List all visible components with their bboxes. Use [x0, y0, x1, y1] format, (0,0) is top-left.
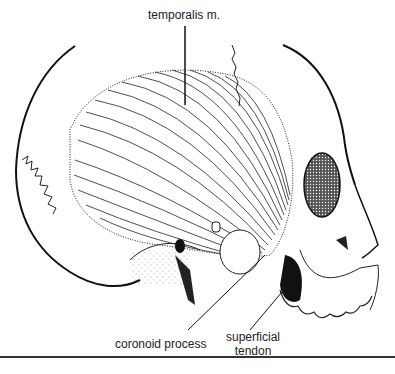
orbit — [304, 153, 340, 217]
bottom-rule — [0, 356, 395, 358]
label-coronoid-process: coronoid process — [115, 337, 206, 351]
tendon-pointer — [250, 280, 292, 330]
skull-illustration — [0, 0, 395, 374]
skull-diagram: temporalis m. coronoid process superfici… — [0, 0, 395, 374]
label-superficial: superficial — [223, 330, 283, 344]
label-temporalis: temporalis m. — [148, 8, 220, 22]
temporalis-muscle — [70, 70, 293, 257]
